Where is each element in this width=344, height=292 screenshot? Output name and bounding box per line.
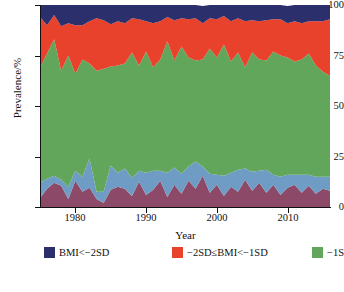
legend-item[interactable]: −1SD≤BMI≤1SD (312, 245, 344, 260)
x-tick-label: 1990 (126, 212, 166, 223)
y-tick-mark (35, 157, 40, 158)
stacked-area-svg (40, 5, 330, 207)
x-tick-label: 1980 (55, 212, 95, 223)
y-tick-mark (35, 5, 40, 6)
legend-item[interactable]: BMI<−2SD (44, 245, 172, 260)
legend-swatch-icon (312, 247, 323, 258)
legend-item[interactable]: −2SD≤BMI<−1SD (172, 245, 312, 260)
legend-swatch-icon (44, 247, 55, 258)
legend-label: −2SD≤BMI<−1SD (187, 247, 268, 258)
y-tick-mark (35, 207, 40, 208)
plot-area (40, 5, 330, 207)
legend-label: −1SD≤BMI≤1SD (327, 247, 344, 258)
x-tick-label: 2000 (197, 212, 237, 223)
x-tick-label: 2010 (268, 212, 308, 223)
y-tick-label: 50 (316, 100, 344, 111)
y-axis-label: Prevalence/% (11, 38, 23, 138)
y-tick-mark (35, 106, 40, 107)
legend-swatch-icon (172, 247, 183, 258)
y-tick-mark (35, 56, 40, 57)
legend-label: BMI<−2SD (59, 247, 109, 258)
x-axis-label: Year (40, 229, 331, 241)
legend: BMI<−2SD−2SD≤BMI<−1SD−1SD≤BMI≤1SD1SD<BMI… (44, 245, 314, 260)
area-band (40, 39, 330, 192)
figure: 0255075100 1980199020002010 Prevalence/%… (0, 0, 344, 292)
y-tick-label: 100 (316, 0, 344, 10)
y-tick-label: 25 (316, 151, 344, 162)
y-tick-label: 75 (316, 50, 344, 61)
y-tick-label: 0 (316, 201, 344, 212)
y-axis-line (40, 5, 41, 208)
